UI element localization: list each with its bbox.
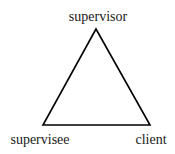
node-label-supervisor: supervisor xyxy=(69,9,128,24)
triangle-diagram: supervisor supervisee client xyxy=(0,0,175,154)
node-label-supervisee: supervisee xyxy=(10,132,69,147)
node-label-client: client xyxy=(135,132,166,147)
relationship-triangle xyxy=(43,29,150,125)
